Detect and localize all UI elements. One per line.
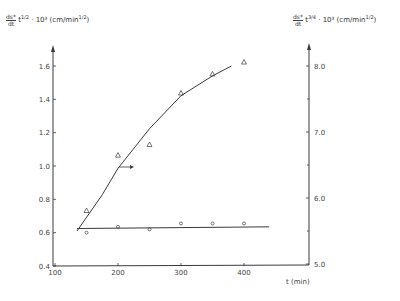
right-y-tick-label: 6.0	[314, 195, 325, 203]
right-y-tick-label: 8.0	[314, 63, 325, 71]
chart-canvas: 1002003004000.40.60.81.01.21.41.65.06.07…	[0, 0, 400, 301]
x-tick-label: 300	[174, 269, 187, 277]
left-y-tick-label: 1.0	[39, 163, 50, 171]
left-y-tick-label: 1.4	[39, 96, 51, 104]
right-y-tick-label: 5.0	[314, 261, 325, 269]
circle-fit-line	[77, 227, 269, 229]
left-axis-label-den: dt	[6, 21, 16, 27]
arrow-head-icon	[130, 165, 134, 169]
right-axis-arrow-icon	[307, 43, 311, 50]
triangle-marker	[179, 91, 184, 96]
left-axis-label: ds*dt t1/2 · 10³ (cm/min1/2)	[6, 14, 89, 27]
triangle-marker	[147, 142, 152, 147]
right-axis-label-exp: 3/4	[308, 14, 316, 20]
right-axis-label-den: dt	[293, 21, 303, 27]
circle-marker	[180, 222, 183, 225]
left-y-tick-label: 0.4	[39, 263, 51, 271]
left-axis-label-units-exp: 1/2	[79, 14, 87, 20]
left-y-tick-label: 0.6	[39, 229, 51, 237]
circle-marker	[243, 222, 246, 225]
triangle-fit-curve	[77, 66, 231, 231]
left-y-tick-label: 1.6	[39, 63, 51, 71]
triangle-marker	[84, 208, 89, 213]
triangle-marker	[116, 153, 121, 158]
left-axis-label-units: · 10³ (cm/min	[31, 16, 78, 24]
left-axis-arrow-icon	[51, 45, 55, 52]
triangle-marker	[210, 71, 215, 76]
circle-marker	[85, 231, 88, 234]
right-axis-label-units: · 10³ (cm/min	[318, 16, 365, 24]
left-y-tick-label: 0.8	[39, 196, 50, 204]
left-y-tick-label: 1.2	[39, 129, 50, 137]
triangle-marker	[242, 60, 247, 65]
x-tick-label: 100	[48, 269, 61, 277]
left-axis-label-exp: 1/2	[21, 14, 29, 20]
circle-marker	[211, 222, 214, 225]
x-axis-label: t (min)	[286, 278, 310, 286]
x-tick-label: 200	[111, 269, 124, 277]
x-tick-label: 400	[237, 269, 250, 277]
right-axis-label-units-exp: 1/2	[366, 14, 374, 20]
right-axis-label: ds*dt t3/4 · 10³ (cm/min1/2)	[293, 14, 376, 27]
right-y-tick-label: 7.0	[314, 129, 325, 137]
